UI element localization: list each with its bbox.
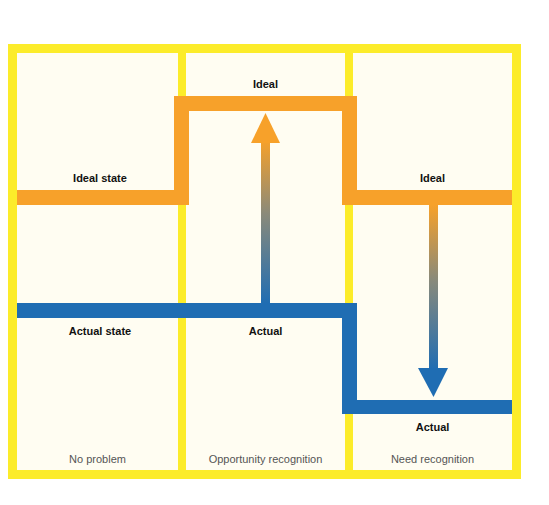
column-caption: Need recognition: [353, 453, 512, 465]
ideal-state-label: Ideal state: [20, 172, 180, 184]
actual-state-label: Actual state: [20, 325, 180, 337]
column-caption: No problem: [17, 453, 178, 465]
actual-label: Actual: [186, 325, 345, 337]
arrow-down-icon: [418, 205, 448, 397]
ideal-label: Ideal: [186, 78, 345, 90]
arrow-up-icon: [251, 113, 280, 304]
ideal-label: Ideal: [353, 172, 512, 184]
column-caption: Opportunity recognition: [186, 453, 345, 465]
actual-label: Actual: [353, 421, 512, 433]
